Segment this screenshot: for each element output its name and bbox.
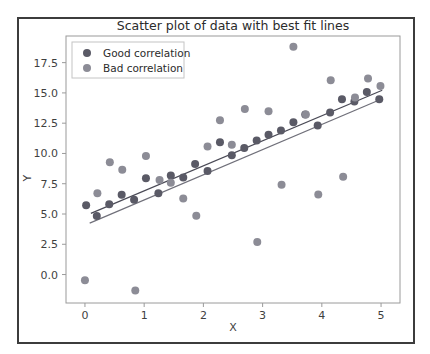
y-tick-label: 12.5	[34, 117, 59, 130]
y-axis-ticks: 0.02.55.07.510.012.515.017.5	[34, 57, 67, 282]
scatter-point	[277, 126, 285, 134]
scatter-point	[302, 110, 310, 118]
scatter-point	[81, 276, 89, 284]
scatter-point	[278, 181, 286, 189]
scatter-point	[314, 122, 322, 130]
y-tick-label: 10.0	[34, 147, 59, 160]
scatter-point	[142, 174, 150, 182]
scatter-point	[289, 43, 297, 51]
scatter-point	[376, 82, 384, 90]
scatter-point	[105, 200, 113, 208]
scatter-point	[179, 195, 187, 203]
x-axis-ticks: 012345	[81, 303, 384, 322]
y-tick-label: 5.0	[41, 208, 59, 221]
x-tick-label: 2	[200, 309, 207, 322]
scatter-point	[327, 76, 335, 84]
scatter-point	[93, 212, 101, 220]
scatter-point	[179, 173, 187, 181]
y-axis-label: Y	[21, 174, 34, 182]
best-fit-line	[91, 90, 382, 213]
x-tick-label: 1	[141, 309, 148, 322]
y-tick-label: 17.5	[34, 57, 59, 70]
scatter-point	[154, 189, 162, 197]
scatter-point	[314, 190, 322, 198]
scatter-point	[326, 109, 334, 117]
scatter-point	[253, 238, 261, 246]
scatter-point	[82, 201, 90, 209]
scatter-point	[228, 151, 236, 159]
best-fit-line	[90, 99, 383, 223]
scatter-point	[363, 88, 371, 96]
scatter-point	[131, 287, 139, 295]
data-points	[81, 43, 385, 295]
x-tick-label: 3	[259, 309, 266, 322]
legend-marker-icon	[83, 64, 91, 72]
scatter-point	[351, 94, 359, 102]
scatter-point	[240, 144, 248, 152]
chart-title: Scatter plot of data with best fit lines	[117, 18, 349, 33]
scatter-point	[339, 173, 347, 181]
scatter-point	[289, 118, 297, 126]
scatter-point	[167, 179, 175, 187]
legend-item-label: Good correlation	[103, 47, 190, 59]
x-tick-label: 4	[318, 309, 325, 322]
scatter-chart-figure: 012345 0.02.55.07.510.012.515.017.5 Scat…	[0, 0, 430, 354]
scatter-point	[375, 95, 383, 103]
scatter-point	[93, 189, 101, 197]
scatter-point	[364, 75, 372, 83]
scatter-point	[204, 167, 212, 175]
scatter-point	[192, 212, 200, 220]
legend-marker-icon	[83, 49, 91, 57]
scatter-point	[216, 138, 224, 146]
y-tick-label: 7.5	[41, 178, 59, 191]
scatter-point	[253, 136, 261, 144]
scatter-point	[216, 116, 224, 124]
x-tick-label: 0	[81, 309, 88, 322]
scatter-point	[156, 176, 164, 184]
scatter-point	[130, 196, 138, 204]
chart-legend[interactable]: Good correlationBad correlation	[72, 42, 190, 78]
scatter-point	[167, 171, 175, 179]
x-axis-label: X	[229, 321, 237, 334]
plot-canvas: 012345 0.02.55.07.510.012.515.017.5 Scat…	[0, 0, 430, 354]
legend-item-label: Bad correlation	[103, 62, 183, 74]
scatter-point	[142, 152, 150, 160]
scatter-point	[191, 160, 199, 168]
scatter-point	[106, 158, 114, 166]
scatter-point	[204, 142, 212, 150]
x-tick-label: 5	[378, 309, 385, 322]
scatter-point	[228, 141, 236, 149]
y-tick-label: 15.0	[34, 87, 59, 100]
y-tick-label: 2.5	[41, 238, 59, 251]
scatter-point	[265, 131, 273, 139]
scatter-point	[118, 166, 126, 174]
y-tick-label: 0.0	[41, 269, 59, 282]
scatter-point	[241, 105, 249, 113]
scatter-point	[118, 191, 126, 199]
scatter-point	[338, 95, 346, 103]
scatter-point	[265, 107, 273, 115]
